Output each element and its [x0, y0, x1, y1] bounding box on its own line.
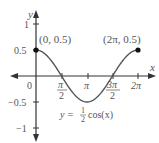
- y-tick-label-neg1: −1: [16, 123, 27, 134]
- y-tick-label-1: 1: [24, 19, 29, 30]
- start-point-dot: [33, 47, 38, 52]
- x-tick-label-2pi: 2π: [131, 80, 142, 91]
- x-axis-left-arrow-icon: [10, 73, 18, 79]
- start-point-label: (0, 0.5): [39, 33, 71, 46]
- y-tick-label-neg0.5: −0.5: [8, 97, 26, 108]
- x-axis-label: x: [149, 61, 155, 73]
- x-tick-label-pi2-den: 2: [59, 90, 64, 101]
- end-point-label: (2π, 0.5): [103, 33, 141, 46]
- x-tick-label-pi2-num: π: [58, 79, 64, 90]
- origin-label: 0: [27, 80, 32, 91]
- y-axis-down-arrow-icon: [33, 134, 39, 142]
- equation-frac-den: 2: [81, 115, 85, 124]
- x-tick-label-pi: π: [84, 80, 90, 91]
- equation-rhs: cos(x): [88, 109, 113, 121]
- equation-frac-num: 1: [81, 106, 85, 115]
- y-axis-up-arrow-icon: [33, 10, 39, 18]
- end-point-dot: [135, 47, 140, 52]
- cosine-graph: y x 1 0.5 0 −0.5 −1 π 2 π 3π 2 2π (0, 0.…: [0, 0, 159, 143]
- x-axis-right-arrow-icon: [148, 73, 156, 79]
- x-tick-label-3pi2-den: 2: [110, 90, 115, 101]
- y-tick-label-0.5: 0.5: [14, 45, 27, 56]
- x-tick-label-3pi2-num: 3π: [106, 79, 118, 90]
- equation-lhs: y =: [59, 109, 74, 120]
